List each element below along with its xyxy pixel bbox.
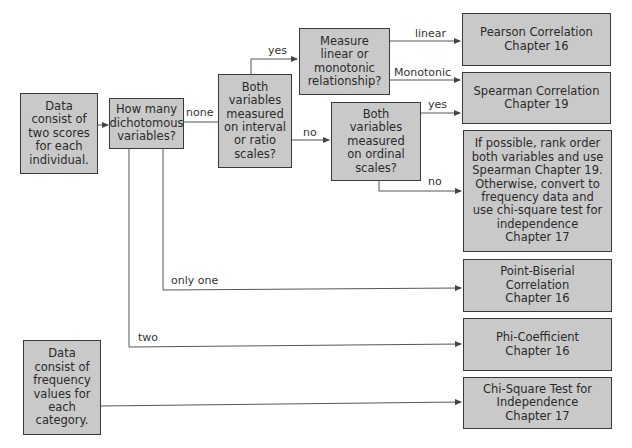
- node-text: If possible, rank order both variables a…: [472, 137, 603, 244]
- node-text: Point-Biserial Correlation Chapter 16: [500, 265, 575, 305]
- node-text: Phi-Coefficient Chapter 16: [496, 331, 579, 358]
- node-interval-ratio: Both variables measured on interval or r…: [218, 74, 292, 168]
- edge-label-monotonic: Monotonic: [394, 66, 451, 79]
- edge-label-no-interval: no: [303, 126, 317, 139]
- edge-label-linear: linear: [415, 27, 446, 40]
- edge-label-yes-interval: yes: [268, 44, 287, 57]
- node-chi-square: Chi-Square Test for Independence Chapter…: [463, 377, 612, 429]
- node-phi: Phi-Coefficient Chapter 16: [463, 318, 612, 371]
- node-text: How many dichotomous variables?: [109, 103, 183, 143]
- node-text: Data consist of frequency values for eac…: [33, 347, 91, 427]
- edge-label-two: two: [138, 331, 158, 344]
- node-text: Pearson Correlation Chapter 16: [480, 26, 593, 53]
- node-text: Both variables measured on interval or r…: [224, 81, 286, 161]
- node-start-frequency: Data consist of frequency values for eac…: [23, 340, 101, 435]
- node-ordinal: Both variables measured on ordinal scale…: [331, 102, 421, 181]
- node-rank-or-chisquare: If possible, rank order both variables a…: [463, 130, 612, 252]
- node-linear-monotonic: Measure linear or monotonic relationship…: [299, 28, 390, 95]
- node-how-many-dichotomous: How many dichotomous variables?: [109, 98, 184, 149]
- edge-label-only-one: only one: [171, 274, 218, 287]
- edge-label-yes-ordinal: yes: [428, 98, 447, 111]
- node-text: Both variables measured on ordinal scale…: [347, 108, 405, 175]
- node-point-biserial: Point-Biserial Correlation Chapter 16: [463, 259, 612, 312]
- node-text: Chi-Square Test for Independence Chapter…: [483, 383, 592, 423]
- node-start-scores: Data consist of two scores for each indi…: [20, 93, 98, 174]
- edge-label-no-ordinal: no: [428, 175, 442, 188]
- node-text: Measure linear or monotonic relationship…: [308, 35, 382, 89]
- node-spearman: Spearman Correlation Chapter 19: [462, 72, 611, 124]
- node-text: Spearman Correlation Chapter 19: [474, 85, 600, 112]
- node-pearson: Pearson Correlation Chapter 16: [462, 13, 611, 66]
- node-text: Data consist of two scores for each indi…: [28, 100, 90, 167]
- edge-label-none: none: [186, 106, 213, 119]
